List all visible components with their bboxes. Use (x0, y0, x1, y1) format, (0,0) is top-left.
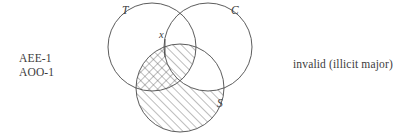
venn-figure-root: AEE-1 AOO-1 invalid (illicit major) (0, 0, 410, 138)
set-label-S: S (217, 97, 223, 109)
venn-diagram: x T C S (0, 0, 410, 138)
set-label-C: C (231, 4, 239, 16)
x-individual-label: x (158, 29, 164, 40)
